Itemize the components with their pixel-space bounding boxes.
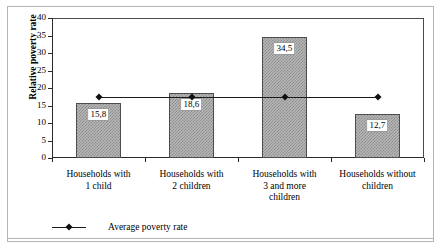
legend-divider [8,238,434,239]
x-category-label-line: 1 child [50,181,147,193]
average-poverty-rate-line [99,97,378,98]
bar-value-label: 15,8 [88,108,110,121]
y-tick-mark [48,36,52,37]
y-tick-label: 40 [20,13,46,22]
x-category-label: Households with1 child [50,169,147,192]
x-category-label-line: 3 and more [236,181,333,193]
y-tick-mark [48,18,52,19]
x-tick-mark [52,158,53,162]
y-tick-label: 30 [20,48,46,57]
x-tick-mark [331,158,332,162]
x-category-label: Households withoutchildren [329,169,426,192]
x-category-label-line: Households with [50,169,147,181]
x-category-label-line: children [329,181,426,193]
bar: 12,7 [355,114,400,158]
y-tick-label: 35 [20,31,46,40]
x-category-label-line: Households with [143,169,240,181]
y-tick-label: 25 [20,66,46,75]
poverty-rate-chart: Relative poverty rate 4035302520151050 1… [0,0,442,249]
y-tick-mark [48,141,52,142]
chart-legend: Average poverty rate [52,222,187,232]
y-tick-label: 20 [20,83,46,92]
bar-value-label: 34,5 [274,42,296,55]
y-tick-mark [48,88,52,89]
x-category-label: Households with3 and morechildren [236,169,333,204]
y-tick-mark [48,106,52,107]
legend-marker-line-diamond-icon [52,222,86,232]
x-tick-mark [424,158,425,162]
y-tick-label: 0 [20,153,46,162]
bar-value-label: 12,7 [367,119,389,132]
y-tick-label: 10 [20,118,46,127]
legend-label-average-poverty-rate: Average poverty rate [108,222,187,232]
y-tick-mark [48,71,52,72]
y-tick-mark [48,53,52,54]
x-category-label-line: Households with [236,169,333,181]
x-category-label-line: children [236,192,333,204]
x-tick-mark [238,158,239,162]
bar: 15,8 [76,103,121,158]
x-category-label-line: Households without [329,169,426,181]
y-tick-label: 15 [20,101,46,110]
y-tick-mark [48,123,52,124]
legend-diamond-icon [65,223,72,230]
x-category-label: Households with2 children [143,169,240,192]
bar: 18,6 [169,93,214,158]
x-category-label-line: 2 children [143,181,240,193]
y-tick-label: 5 [20,136,46,145]
x-tick-mark [145,158,146,162]
